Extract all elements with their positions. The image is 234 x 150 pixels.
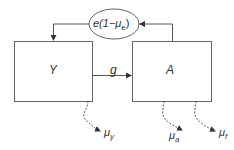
mu-a-loss-arrow (163, 101, 182, 130)
mu-y-loss-arrow (84, 101, 100, 131)
mu-f-sub: f (225, 132, 227, 141)
mu-a-sub: a (175, 135, 179, 144)
mu-y-label: μy (104, 127, 114, 141)
mu-f-loss-arrow (195, 101, 215, 131)
mu-a-label: μa (169, 130, 179, 144)
mu-f-label: μf (219, 127, 227, 141)
mu-y-sub: y (110, 132, 114, 141)
yearlings-label: Y (49, 64, 57, 76)
reproduction-prefix: e(1−μ (93, 17, 121, 29)
adults-to-reproduction-arrow (140, 24, 173, 41)
growth-label: g (110, 64, 117, 76)
adults-label: A (166, 64, 174, 76)
reproduction-suffix: ) (126, 17, 130, 29)
reproduction-to-yearlings-arrow (54, 24, 90, 40)
reproduction-label: e(1−μe) (93, 18, 129, 32)
